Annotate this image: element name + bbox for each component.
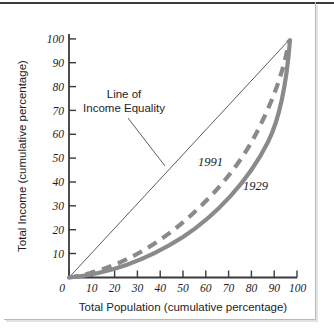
y-tick-label-50: 50 bbox=[53, 152, 65, 164]
y-tick-label-40: 40 bbox=[53, 176, 65, 188]
y-axis-tick-labels: 100 90 80 70 60 50 40 30 20 10 bbox=[47, 33, 65, 260]
x-tick-label-0: 0 bbox=[59, 282, 65, 294]
x-tick-label-80: 80 bbox=[246, 282, 258, 294]
equality-annotation-leader-line bbox=[128, 118, 165, 166]
x-tick-label-70: 70 bbox=[223, 282, 235, 294]
y-tick-label-80: 80 bbox=[53, 81, 65, 93]
figure-frame: 100 90 80 70 60 50 40 30 20 10 0 10 20 3… bbox=[0, 0, 334, 333]
y-tick-label-70: 70 bbox=[53, 105, 65, 117]
x-tick-label-30: 30 bbox=[131, 282, 144, 294]
income-equality-annotation: Line of Income Equality bbox=[83, 88, 165, 166]
equality-annotation-line1: Line of bbox=[107, 88, 142, 100]
series-label-1929: 1929 bbox=[243, 179, 269, 193]
y-tick-label-30: 30 bbox=[52, 200, 65, 212]
x-axis-tick-labels: 0 10 20 30 40 50 60 70 80 90 100 bbox=[59, 282, 306, 294]
y-tick-label-10: 10 bbox=[53, 248, 65, 260]
x-tick-label-10: 10 bbox=[86, 282, 98, 294]
x-axis-title: Total Population (cumulative percentage) bbox=[79, 301, 288, 313]
series-label-1991: 1991 bbox=[198, 155, 223, 169]
x-tick-label-60: 60 bbox=[200, 282, 212, 294]
x-tick-label-40: 40 bbox=[154, 282, 166, 294]
x-tick-label-90: 90 bbox=[268, 282, 280, 294]
y-tick-label-90: 90 bbox=[53, 57, 65, 69]
equality-annotation-line2: Income Equality bbox=[83, 102, 165, 114]
y-tick-label-100: 100 bbox=[47, 33, 65, 45]
x-tick-label-20: 20 bbox=[109, 282, 121, 294]
y-axis-title: Total Income (cumulative percentage) bbox=[16, 60, 28, 252]
y-tick-label-20: 20 bbox=[53, 224, 65, 236]
y-axis-ticks bbox=[69, 39, 76, 254]
x-tick-label-100: 100 bbox=[289, 282, 307, 294]
lorenz-curve-chart: 100 90 80 70 60 50 40 30 20 10 0 10 20 3… bbox=[0, 0, 334, 333]
y-tick-label-60: 60 bbox=[53, 128, 65, 140]
x-tick-label-50: 50 bbox=[177, 282, 189, 294]
